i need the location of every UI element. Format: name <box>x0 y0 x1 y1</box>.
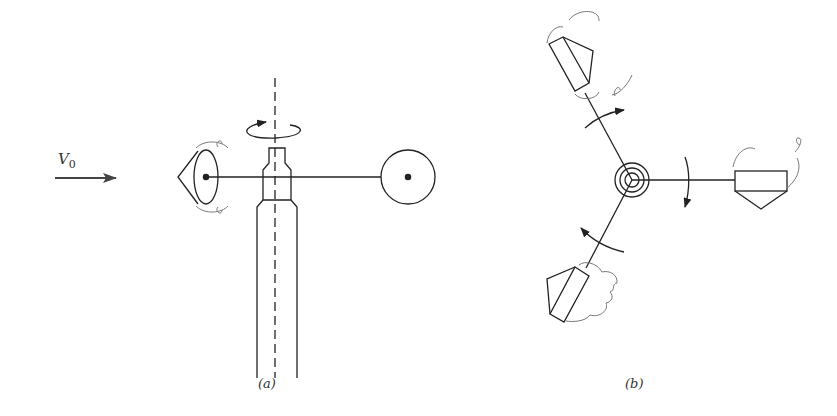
caption-b: (b) <box>625 376 643 391</box>
rotation-arrow-right <box>685 157 689 207</box>
rotation-arrow-bottom <box>581 228 624 252</box>
rotation-arrow-top <box>585 110 624 128</box>
rotation-arrow-icon <box>247 122 301 138</box>
caption-a: (a) <box>258 376 276 391</box>
wind-velocity-label: V0 <box>58 150 76 171</box>
panel-a <box>55 78 435 378</box>
anemometer-diagram <box>0 0 837 416</box>
panel-b <box>547 11 801 322</box>
